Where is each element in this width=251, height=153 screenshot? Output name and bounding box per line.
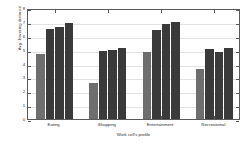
bar xyxy=(89,83,98,119)
x-axis-title: Work cell's profile xyxy=(27,132,240,138)
y-tick-label: 8 xyxy=(14,7,25,11)
bar xyxy=(224,48,233,119)
bar xyxy=(65,23,74,119)
x-tick-label: Eating xyxy=(48,122,60,128)
y-tick-label: 1 xyxy=(14,104,25,108)
y-tick-label: 7 xyxy=(14,21,25,25)
y-tick-label: 3 xyxy=(14,76,25,80)
bar xyxy=(143,52,152,119)
bar xyxy=(171,22,180,119)
x-axis-tick-labels: EatingShoppingEntertainmentRecreational xyxy=(27,122,240,131)
y-axis-tick-labels: 012345678 xyxy=(14,9,25,120)
plot-area xyxy=(27,9,240,120)
bar xyxy=(162,24,171,119)
bar xyxy=(46,29,55,119)
bar xyxy=(196,69,205,119)
y-tick-label: 2 xyxy=(14,90,25,94)
x-tick-label: Recreational xyxy=(201,122,225,128)
bar xyxy=(55,27,64,119)
y-tick-label: 4 xyxy=(14,62,25,66)
y-tick-label: 0 xyxy=(14,118,25,122)
y-tick-label: 6 xyxy=(14,35,25,39)
x-tick-label: Shopping xyxy=(98,122,116,128)
bar xyxy=(205,49,214,119)
bar-series-container xyxy=(28,10,239,119)
bar xyxy=(36,54,45,119)
y-tick-label: 5 xyxy=(14,49,25,53)
bar xyxy=(118,48,127,119)
x-tick-label: Entertainment xyxy=(147,122,174,128)
bar xyxy=(108,50,117,119)
bar xyxy=(215,52,224,119)
bar-chart-figure: Avg. hovering distance 012345678 EatingS… xyxy=(0,0,251,153)
bar xyxy=(99,51,108,119)
bar xyxy=(152,30,161,119)
